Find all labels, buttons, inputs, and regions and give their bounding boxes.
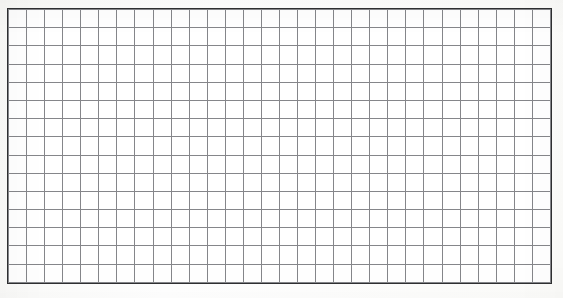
grid-cell[interactable] — [135, 137, 153, 155]
grid-cell[interactable] — [189, 228, 207, 246]
grid-cell[interactable] — [514, 210, 532, 228]
grid-cell[interactable] — [334, 173, 352, 191]
grid-cell[interactable] — [27, 155, 45, 173]
grid-cell[interactable] — [424, 155, 442, 173]
grid-cell[interactable] — [9, 191, 27, 209]
grid-cell[interactable] — [171, 191, 189, 209]
grid-cell[interactable] — [478, 155, 496, 173]
grid-cell[interactable] — [279, 82, 297, 100]
grid-cell[interactable] — [388, 191, 406, 209]
grid-cell[interactable] — [442, 155, 460, 173]
grid-cell[interactable] — [261, 64, 279, 82]
grid-cell[interactable] — [478, 191, 496, 209]
grid-cell[interactable] — [298, 100, 316, 118]
grid-cell[interactable] — [532, 264, 550, 282]
grid-cell[interactable] — [279, 191, 297, 209]
grid-cell[interactable] — [424, 82, 442, 100]
grid-cell[interactable] — [27, 64, 45, 82]
grid-cell[interactable] — [9, 10, 27, 28]
grid-cell[interactable] — [298, 64, 316, 82]
grid-cell[interactable] — [135, 100, 153, 118]
grid-cell[interactable] — [117, 228, 135, 246]
grid-cell[interactable] — [532, 155, 550, 173]
grid-cell[interactable] — [460, 191, 478, 209]
grid-cell[interactable] — [9, 137, 27, 155]
grid-cell[interactable] — [9, 28, 27, 46]
grid-cell[interactable] — [352, 246, 370, 264]
grid-cell[interactable] — [261, 264, 279, 282]
grid-cell[interactable] — [316, 173, 334, 191]
grid-cell[interactable] — [316, 46, 334, 64]
grid-cell[interactable] — [279, 137, 297, 155]
grid-cell[interactable] — [27, 246, 45, 264]
grid-cell[interactable] — [298, 173, 316, 191]
grid-cell[interactable] — [45, 246, 63, 264]
grid-cell[interactable] — [243, 64, 261, 82]
grid-cell[interactable] — [153, 119, 171, 137]
grid-cell[interactable] — [370, 264, 388, 282]
grid-cell[interactable] — [298, 10, 316, 28]
grid-cell[interactable] — [478, 119, 496, 137]
grid-cell[interactable] — [171, 46, 189, 64]
grid-cell[interactable] — [478, 264, 496, 282]
grid-cell[interactable] — [279, 10, 297, 28]
grid-cell[interactable] — [189, 46, 207, 64]
grid-cell[interactable] — [117, 155, 135, 173]
grid-cell[interactable] — [45, 155, 63, 173]
grid-cell[interactable] — [316, 137, 334, 155]
grid-cell[interactable] — [9, 228, 27, 246]
grid-cell[interactable] — [207, 228, 225, 246]
grid-cell[interactable] — [189, 119, 207, 137]
grid-cell[interactable] — [279, 28, 297, 46]
grid-cell[interactable] — [117, 210, 135, 228]
grid-cell[interactable] — [496, 64, 514, 82]
grid-cell[interactable] — [99, 228, 117, 246]
grid-cell[interactable] — [460, 28, 478, 46]
grid-cell[interactable] — [370, 191, 388, 209]
grid-cell[interactable] — [279, 210, 297, 228]
grid-cell[interactable] — [370, 100, 388, 118]
grid-cell[interactable] — [63, 228, 81, 246]
grid-cell[interactable] — [99, 119, 117, 137]
grid-cell[interactable] — [406, 228, 424, 246]
grid-cell[interactable] — [135, 210, 153, 228]
grid-cell[interactable] — [153, 228, 171, 246]
grid-cell[interactable] — [406, 137, 424, 155]
grid-cell[interactable] — [406, 46, 424, 64]
grid-cell[interactable] — [189, 155, 207, 173]
grid-cell[interactable] — [316, 228, 334, 246]
grid-cell[interactable] — [316, 28, 334, 46]
grid-cell[interactable] — [334, 46, 352, 64]
grid-cell[interactable] — [207, 173, 225, 191]
grid-cell[interactable] — [207, 155, 225, 173]
grid-cell[interactable] — [45, 28, 63, 46]
grid-cell[interactable] — [99, 100, 117, 118]
grid-cell[interactable] — [424, 173, 442, 191]
grid-cell[interactable] — [171, 28, 189, 46]
grid-cell[interactable] — [279, 228, 297, 246]
grid-cell[interactable] — [532, 82, 550, 100]
grid-cell[interactable] — [514, 28, 532, 46]
grid-cell[interactable] — [9, 173, 27, 191]
grid-cell[interactable] — [370, 82, 388, 100]
grid-cell[interactable] — [171, 10, 189, 28]
grid-cell[interactable] — [316, 100, 334, 118]
grid-cell[interactable] — [63, 82, 81, 100]
grid-cell[interactable] — [9, 246, 27, 264]
grid-cell[interactable] — [63, 10, 81, 28]
grid-cell[interactable] — [514, 119, 532, 137]
grid-cell[interactable] — [243, 137, 261, 155]
grid-cell[interactable] — [532, 137, 550, 155]
grid-cell[interactable] — [243, 28, 261, 46]
grid-cell[interactable] — [478, 100, 496, 118]
grid-cell[interactable] — [171, 100, 189, 118]
grid-cell[interactable] — [261, 10, 279, 28]
grid-cell[interactable] — [424, 64, 442, 82]
grid-cell[interactable] — [316, 191, 334, 209]
grid-cell[interactable] — [406, 264, 424, 282]
grid-cell[interactable] — [45, 137, 63, 155]
grid-cell[interactable] — [334, 191, 352, 209]
grid-cell[interactable] — [9, 155, 27, 173]
grid-cell[interactable] — [532, 28, 550, 46]
grid-cell[interactable] — [532, 210, 550, 228]
